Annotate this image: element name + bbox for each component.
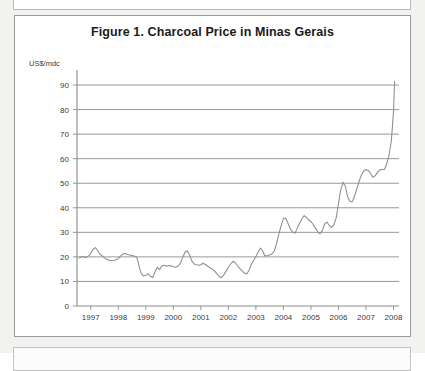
x-axis-tick-label: 1997 <box>82 313 100 322</box>
chart-canvas: 0102030405060708090 19971998199920002001… <box>15 16 412 338</box>
y-axis-tick-label: 30 <box>60 228 69 237</box>
top-partial-content-box <box>13 0 411 10</box>
y-axis-ticks-group: 0102030405060708090 <box>60 81 77 311</box>
y-axis-tick-label: 90 <box>60 81 69 90</box>
y-axis-tick-label: 60 <box>60 155 69 164</box>
gridlines-group <box>77 85 399 281</box>
x-axis-tick-label: 2002 <box>219 313 237 322</box>
y-axis-tick-label: 50 <box>60 179 69 188</box>
x-axis-tick-label: 1998 <box>109 313 127 322</box>
x-axis-tick-label: 2000 <box>164 313 182 322</box>
x-axis-tick-label: 2008 <box>385 313 403 322</box>
x-axis-tick-label: 2005 <box>302 313 320 322</box>
y-axis-tick-label: 80 <box>60 106 69 115</box>
y-axis-tick-label: 10 <box>60 277 69 286</box>
x-axis-tick-label: 2004 <box>275 313 293 322</box>
x-axis-tick-label: 1999 <box>137 313 155 322</box>
y-axis-tick-label: 20 <box>60 253 69 262</box>
figure-container: Figure 1. Charcoal Price in Minas Gerais… <box>14 15 411 337</box>
bottom-partial-content-box <box>13 347 411 371</box>
y-axis-tick-label: 0 <box>65 302 70 311</box>
x-axis-tick-label: 2006 <box>330 313 348 322</box>
x-axis-ticks-group: 1997199819992000200120022003200420052006… <box>82 306 403 322</box>
y-axis-tick-label: 70 <box>60 130 69 139</box>
y-axis-tick-label: 40 <box>60 204 69 213</box>
price-series-line <box>79 81 394 277</box>
y-axis-unit-label: US$/mdc <box>29 59 60 68</box>
line-chart: 0102030405060708090 19971998199920002001… <box>15 16 412 338</box>
x-axis-tick-label: 2003 <box>247 313 265 322</box>
x-axis-tick-label: 2007 <box>357 313 375 322</box>
x-axis-tick-label: 2001 <box>192 313 210 322</box>
